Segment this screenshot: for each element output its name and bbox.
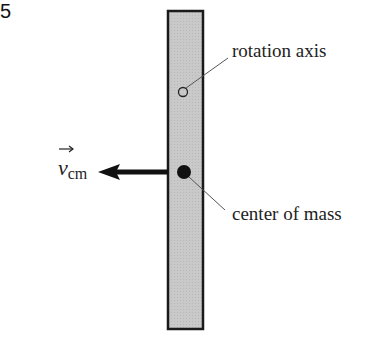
velocity-symbol: v [58, 155, 68, 180]
rotation-axis-label: rotation axis [232, 40, 326, 62]
center-of-mass-label: center of mass [232, 203, 342, 225]
velocity-arrow [98, 164, 168, 180]
velocity-subscript: cm [68, 165, 88, 182]
velocity-cm-label: vcm [58, 155, 87, 181]
vector-arrow-icon [59, 145, 75, 153]
center-of-mass-marker [177, 165, 191, 179]
